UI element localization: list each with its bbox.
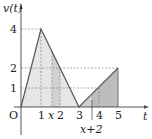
- y-tick-2: 2: [10, 62, 17, 75]
- graph-canvas: v(t) t O 4 2 1 1 x 2 3 4 5 x+2: [0, 0, 152, 139]
- x-tick-4: 4: [96, 109, 103, 122]
- x-plus-2-label: x+2: [80, 123, 102, 136]
- y-axis-label: v(t): [3, 2, 22, 15]
- x-tick-1: 1: [38, 109, 45, 122]
- x-tick-x: x: [48, 109, 55, 122]
- x-tick-5: 5: [115, 109, 122, 122]
- x-axis-label: t: [143, 110, 148, 123]
- origin-label: O: [9, 109, 18, 122]
- x-tick-2: 2: [57, 109, 64, 122]
- y-tick-1: 1: [10, 82, 17, 95]
- x-axis-arrow-icon: [144, 105, 149, 108]
- shaded-area-x2-5: [92, 68, 118, 107]
- velocity-time-diagram: v(t) t O 4 2 1 1 x 2 3 4 5 x+2: [0, 0, 152, 139]
- x-tick-3: 3: [76, 109, 83, 122]
- y-tick-4: 4: [10, 23, 17, 36]
